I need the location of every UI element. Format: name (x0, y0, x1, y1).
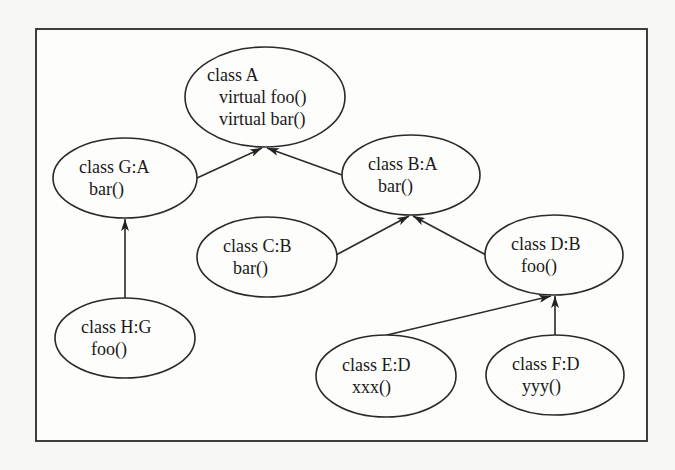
class-ellipse (342, 135, 480, 215)
class-node-a: class Avirtual foo()virtual bar() (185, 47, 345, 147)
class-ellipse (53, 138, 197, 218)
class-ellipse (486, 335, 624, 415)
class-name: class B:A (368, 154, 438, 174)
class-ellipse (485, 215, 623, 295)
class-name: class D:B (511, 234, 581, 254)
class-method: foo() (521, 256, 557, 277)
class-ellipse (55, 298, 195, 378)
class-name: class G:A (79, 157, 150, 177)
class-node-d: class D:Bfoo() (485, 215, 623, 295)
class-method: bar() (233, 258, 268, 279)
class-method: bar() (89, 179, 124, 200)
class-method: bar() (378, 176, 413, 197)
class-node-c: class C:Bbar() (197, 217, 337, 297)
class-name: class H:G (81, 317, 152, 337)
class-name: class C:B (223, 236, 292, 256)
class-name: class E:D (342, 355, 410, 375)
class-ellipse (316, 335, 456, 417)
class-ellipse (197, 217, 337, 297)
class-node-e: class E:Dxxx() (316, 335, 456, 417)
class-method: virtual foo() (219, 87, 306, 108)
class-name: class A (207, 65, 259, 85)
class-node-h: class H:Gfoo() (55, 298, 195, 378)
class-method: foo() (91, 339, 127, 360)
class-hierarchy-diagram: class Avirtual foo()virtual bar()class G… (0, 0, 675, 470)
class-method: virtual bar() (219, 109, 305, 130)
class-method: yyy() (522, 376, 561, 397)
class-node-f: class F:Dyyy() (486, 335, 624, 415)
class-node-b: class B:Abar() (342, 135, 480, 215)
class-node-g: class G:Abar() (53, 138, 197, 218)
class-method: xxx() (352, 377, 391, 398)
class-name: class F:D (512, 354, 580, 374)
